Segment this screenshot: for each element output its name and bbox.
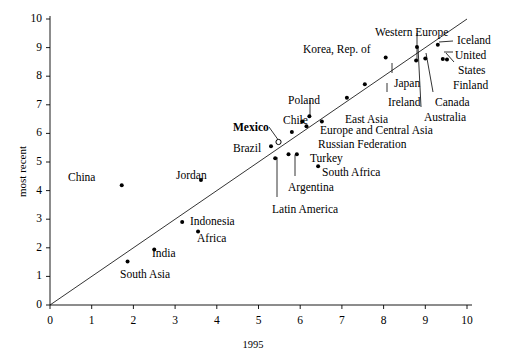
x-tick-label: 8 [375,315,393,327]
data-point-brazil[interactable] [269,144,273,148]
x-tick-label: 6 [291,315,309,327]
scatter-plot-figure: 012345678910012345678910 ChinaJordanIndo… [0,0,507,362]
point-label-united: United [455,50,486,62]
x-tick-label: 10 [458,315,476,327]
x-axis-title: 1995 [243,339,264,350]
point-label-finland: Finland [453,80,488,92]
data-point-poland[interactable] [307,114,311,118]
y-tick-label: 6 [24,127,42,139]
point-label-australia: Australia [424,112,466,124]
point-label-turkey: Turkey [310,153,343,165]
data-point-south-africa[interactable] [316,164,320,168]
data-point-finland[interactable] [445,58,449,62]
point-label-india: India [152,248,176,260]
y-tick-label: 3 [24,213,42,225]
data-point-east-asia[interactable] [320,119,324,123]
point-label-mexico: Mexico [233,122,269,134]
point-label-jordan: Jordan [176,170,207,182]
data-point-turkey[interactable] [295,152,299,156]
point-label-states: States [458,65,485,77]
point-label-china: China [68,172,95,184]
data-point-canada[interactable] [423,56,427,60]
x-tick-label: 2 [124,315,142,327]
point-label-east-asia: East Asia [345,114,388,126]
point-label-russian-federation: Russian Federation [318,139,406,151]
point-label-iceland: Iceland [457,35,491,47]
y-tick-label: 9 [24,42,42,54]
y-axis-title: most recent [16,146,28,197]
point-label-latin-america: Latin America [272,204,338,216]
x-tick-label: 5 [250,315,268,327]
y-tick-label: 0 [24,299,42,311]
data-point-russian-federation[interactable] [290,130,294,134]
x-tick-label: 7 [333,315,351,327]
point-label-korea-rep-of: Korea, Rep. of [303,44,371,56]
point-label-western-europe: Western Europe [375,27,448,39]
point-label-south-africa: South Africa [322,167,380,179]
y-tick-label: 2 [24,242,42,254]
x-tick-label: 3 [166,315,184,327]
mexico-leader [269,127,279,141]
point-label-south-asia: South Asia [120,269,170,281]
data-point-china[interactable] [120,183,124,187]
data-point-iceland[interactable] [436,43,440,47]
y-tick-label: 10 [24,13,42,25]
x-tick-label: 4 [208,315,226,327]
point-label-japan: Japan [394,78,420,90]
data-point-mexico[interactable] [276,139,281,144]
data-point-korea-rep-of[interactable] [384,56,388,60]
point-label-argentina: Argentina [288,182,334,194]
point-label-africa: Africa [197,233,226,245]
canada-leader [426,53,433,92]
data-point-western-europe[interactable] [414,58,418,62]
point-label-brazil: Brazil [233,143,261,155]
data-point-indonesia[interactable] [180,220,184,224]
point-label-poland: Poland [288,95,320,107]
point-label-indonesia: Indonesia [190,216,235,228]
point-label-europe-and-central-asia: Europe and Central Asia [320,125,433,137]
point-label-chile: Chile [283,115,308,127]
45-degree-line [50,19,467,305]
iceland-leader [439,41,453,42]
point-label-ireland: Ireland [388,97,421,109]
data-point-south-asia[interactable] [126,260,130,264]
data-point-latin-america[interactable] [273,156,277,160]
states-leader [446,53,454,62]
data-point-argentina[interactable] [287,152,291,156]
y-tick-label: 8 [24,70,42,82]
data-point-ireland[interactable] [345,96,349,100]
y-tick-label: 1 [24,270,42,282]
data-point-united-states[interactable] [441,57,445,61]
x-tick-label: 1 [83,315,101,327]
data-point-japan[interactable] [363,82,367,86]
data-point-australia[interactable] [415,45,419,49]
x-tick-label: 0 [41,315,59,327]
x-tick-label: 9 [416,315,434,327]
y-tick-label: 7 [24,99,42,111]
point-label-canada: Canada [435,97,469,109]
